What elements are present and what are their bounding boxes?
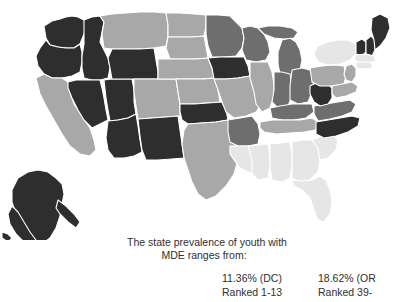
legend-high-value: 18.62% (OR xyxy=(318,272,376,286)
legend-high-rank: Ranked 39- xyxy=(318,286,376,300)
figure-caption: The state prevalence of youth with MDE r… xyxy=(0,236,396,302)
us-map-svg xyxy=(0,0,396,240)
state-AR xyxy=(228,116,260,146)
state-CO xyxy=(134,79,180,119)
state-NE xyxy=(158,58,214,79)
state-NY xyxy=(314,40,356,65)
state-PA xyxy=(310,65,346,86)
state-NJ xyxy=(344,64,356,82)
legend-high-column: 18.62% (OR Ranked 39- xyxy=(318,272,376,299)
state-NM xyxy=(138,116,184,160)
state-SD xyxy=(166,36,208,59)
legend-low-column: 11.36% (DC) Ranked 1-13 xyxy=(222,272,282,299)
state-KS xyxy=(176,78,220,104)
state-WY xyxy=(108,48,158,79)
caption-line-2: MDE ranges from: xyxy=(0,249,396,262)
state-AL xyxy=(270,142,292,182)
state-IA xyxy=(208,57,250,79)
state-TN xyxy=(260,118,318,134)
state-ND xyxy=(166,13,206,37)
legend-low-value: 11.36% (DC) xyxy=(222,272,282,286)
caption-line-1: The state prevalence of youth with xyxy=(0,236,396,249)
state-MN xyxy=(206,15,244,57)
state-KY xyxy=(270,104,314,120)
us-choropleth-map xyxy=(0,0,396,240)
state-VT xyxy=(356,39,366,56)
state-AK-panhandle xyxy=(56,200,80,228)
legend-row: 11.36% (DC) Ranked 1-13 18.62% (OR Ranke… xyxy=(0,272,396,302)
state-MT xyxy=(100,12,168,49)
state-AZ xyxy=(106,114,142,158)
state-WA xyxy=(44,16,86,48)
state-FL xyxy=(292,176,332,222)
state-GA xyxy=(292,140,320,182)
legend-low-rank: Ranked 1-13 xyxy=(222,286,282,300)
state-IN xyxy=(272,72,292,108)
state-UT xyxy=(104,79,136,121)
state-CT xyxy=(356,62,372,69)
